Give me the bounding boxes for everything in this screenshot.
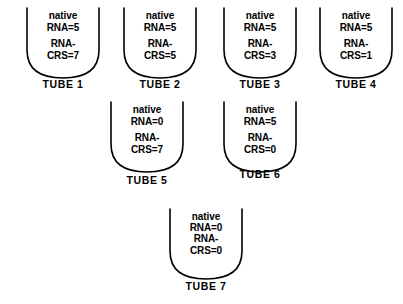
tube-1: native RNA=5 RNA- CRS=7 TUBE 1 xyxy=(20,6,106,84)
tube-3-body: native RNA=5 RNA- CRS=3 xyxy=(217,6,303,84)
tube-6-body: native RNA=5 RNA- CRS=0 xyxy=(217,100,303,178)
tube-7-label: TUBE 7 xyxy=(163,280,249,292)
tube-3-label: TUBE 3 xyxy=(217,78,303,90)
tube-4-body: native RNA=5 RNA- CRS=1 xyxy=(313,6,399,84)
tube-3-crs-label: RNA- xyxy=(217,38,303,50)
tube-3-native-value: RNA=5 xyxy=(217,22,303,34)
tube-5-native-value: RNA=0 xyxy=(104,116,190,128)
tube-5-contents: native RNA=0 RNA- CRS=7 xyxy=(104,104,190,155)
tube-2: native RNA=5 RNA- CRS=5 TUBE 2 xyxy=(117,6,203,84)
tube-5-native-label: native xyxy=(104,104,190,116)
tube-3-crs-value: CRS=3 xyxy=(217,50,303,62)
tube-5-crs-label: RNA- xyxy=(104,132,190,144)
tube-7-contents: native RNA=0 RNA- CRS=0 xyxy=(163,211,249,256)
tube-2-native-value: RNA=5 xyxy=(117,22,203,34)
tube-4-crs-value: CRS=1 xyxy=(313,50,399,62)
tube-6-native-label: native xyxy=(217,104,303,116)
tube-6: native RNA=5 RNA- CRS=0 TUBE 6 xyxy=(217,100,303,178)
tube-1-native-value: RNA=5 xyxy=(20,22,106,34)
tube-3-native-label: native xyxy=(217,10,303,22)
tube-6-crs-label: RNA- xyxy=(217,132,303,144)
tube-6-native-value: RNA=5 xyxy=(217,116,303,128)
tube-1-crs-label: RNA- xyxy=(20,38,106,50)
tube-7-crs-value: CRS=0 xyxy=(163,245,249,256)
tube-4-native-label: native xyxy=(313,10,399,22)
tube-7: native RNA=0 RNA- CRS=0 TUBE 7 xyxy=(163,207,249,285)
test-tube-diagram: native RNA=5 RNA- CRS=7 TUBE 1 native RN… xyxy=(0,0,403,304)
tube-2-crs-label: RNA- xyxy=(117,38,203,50)
tube-7-body: native RNA=0 RNA- CRS=0 xyxy=(163,207,249,285)
tube-4-crs-label: RNA- xyxy=(313,38,399,50)
tube-2-native-label: native xyxy=(117,10,203,22)
tube-2-contents: native RNA=5 RNA- CRS=5 xyxy=(117,10,203,61)
tube-2-label: TUBE 2 xyxy=(117,78,203,90)
tube-7-native-value: RNA=0 xyxy=(163,222,249,233)
tube-6-contents: native RNA=5 RNA- CRS=0 xyxy=(217,104,303,155)
tube-1-contents: native RNA=5 RNA- CRS=7 xyxy=(20,10,106,61)
tube-3: native RNA=5 RNA- CRS=3 TUBE 3 xyxy=(217,6,303,84)
tube-6-label: TUBE 6 xyxy=(217,168,303,180)
tube-6-crs-value: CRS=0 xyxy=(217,144,303,156)
tube-5-crs-value: CRS=7 xyxy=(104,144,190,156)
tube-5-body: native RNA=0 RNA- CRS=7 xyxy=(104,100,190,178)
tube-7-crs-label: RNA- xyxy=(163,233,249,244)
tube-4: native RNA=5 RNA- CRS=1 TUBE 4 xyxy=(313,6,399,84)
tube-3-contents: native RNA=5 RNA- CRS=3 xyxy=(217,10,303,61)
tube-7-native-label: native xyxy=(163,211,249,222)
tube-2-body: native RNA=5 RNA- CRS=5 xyxy=(117,6,203,84)
tube-1-label: TUBE 1 xyxy=(20,78,106,90)
tube-4-label: TUBE 4 xyxy=(313,78,399,90)
tube-4-contents: native RNA=5 RNA- CRS=1 xyxy=(313,10,399,61)
tube-4-native-value: RNA=5 xyxy=(313,22,399,34)
tube-1-crs-value: CRS=7 xyxy=(20,50,106,62)
tube-1-body: native RNA=5 RNA- CRS=7 xyxy=(20,6,106,84)
tube-2-crs-value: CRS=5 xyxy=(117,50,203,62)
tube-1-native-label: native xyxy=(20,10,106,22)
tube-5: native RNA=0 RNA- CRS=7 TUBE 5 xyxy=(104,100,190,178)
tube-5-label: TUBE 5 xyxy=(104,174,190,186)
